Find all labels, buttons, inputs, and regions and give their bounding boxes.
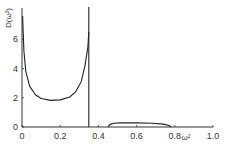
series-line <box>108 123 171 127</box>
y-tick-label: 0 <box>13 122 18 132</box>
series-line <box>23 16 89 101</box>
y-tick-label: 4 <box>13 64 18 74</box>
x-tick-label: 0.4 <box>92 131 105 141</box>
x-tick-label: 0.2 <box>54 131 67 141</box>
axis-ticks: 00.20.40.60.81.00246 <box>13 34 219 141</box>
x-tick-label: 1.0 <box>207 131 220 141</box>
y-tick-label: 6 <box>13 34 18 44</box>
data-series <box>23 7 171 127</box>
x-axis-title: ω² <box>182 133 191 142</box>
y-axis-title: D(ω²) <box>4 8 13 28</box>
density-of-states-chart: 00.20.40.60.81.00246 D(ω²) ω² <box>0 0 227 146</box>
x-tick-label: 0.8 <box>169 131 182 141</box>
x-tick-label: 0.6 <box>130 131 143 141</box>
axes <box>22 8 213 127</box>
x-tick-label: 0 <box>19 131 24 141</box>
y-tick-label: 2 <box>13 93 18 103</box>
